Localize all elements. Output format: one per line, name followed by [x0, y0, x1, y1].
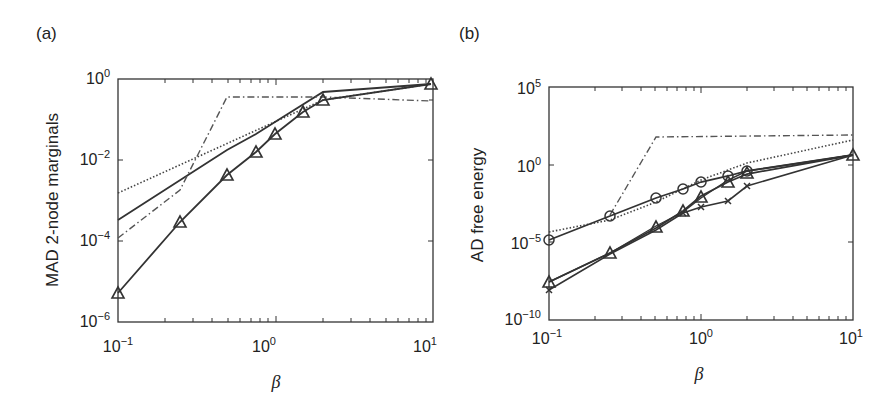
svg-text:100: 100: [252, 335, 276, 355]
panel-a: (a) MAD 2-node marginals 100 10−2 10−4 1…: [0, 0, 450, 412]
svg-text:101: 101: [413, 335, 437, 355]
chart-a-series-dashdot: [118, 97, 431, 238]
svg-text:101: 101: [839, 327, 863, 347]
chart-b-plot-area: [549, 87, 853, 320]
panel-b: (b) AD free energy 105 100 10−5 10−10 10…: [445, 0, 895, 412]
chart-b-series-dotted: [549, 140, 853, 232]
svg-text:100: 100: [517, 155, 541, 175]
chart-a-triangle-markers: [112, 78, 437, 298]
chart-b-x-markers: [546, 183, 750, 293]
chart-a-series-solid: [118, 84, 431, 220]
svg-text:10−2: 10−2: [80, 148, 110, 168]
chart-b: AD free energy 105 100 10−5 10−10 10−1 1…: [445, 0, 895, 412]
svg-text:105: 105: [517, 77, 541, 97]
chart-a-ylabel: MAD 2-node marginals: [43, 113, 62, 287]
svg-text:10−5: 10−5: [511, 232, 541, 252]
chart-b-minor-ticks: [549, 87, 853, 320]
svg-text:100: 100: [689, 327, 713, 347]
chart-a-xlabel: β: [271, 372, 281, 392]
chart-b-yticks: 105 100 10−5 10−10: [505, 77, 541, 328]
chart-b-xticks: 10−1 100 101: [532, 327, 863, 347]
chart-a: MAD 2-node marginals 100 10−2 10−4 10−6 …: [0, 0, 450, 412]
chart-a-plot-area: [118, 79, 433, 322]
svg-text:10−6: 10−6: [80, 310, 110, 330]
chart-b-xlabel: β: [694, 364, 704, 384]
svg-text:10−1: 10−1: [103, 335, 133, 355]
chart-a-xticks: 10−1 100 101: [103, 335, 437, 355]
chart-a-yticks: 100 10−2 10−4 10−6: [80, 67, 110, 330]
svg-text:10−1: 10−1: [532, 327, 562, 347]
svg-text:10−10: 10−10: [505, 308, 541, 328]
svg-text:10−4: 10−4: [80, 229, 110, 249]
chart-b-ylabel: AD free energy: [468, 147, 487, 262]
chart-a-minor-ticks: [118, 79, 433, 322]
chart-a-series-triangles: [118, 84, 431, 293]
svg-text:100: 100: [86, 67, 110, 87]
